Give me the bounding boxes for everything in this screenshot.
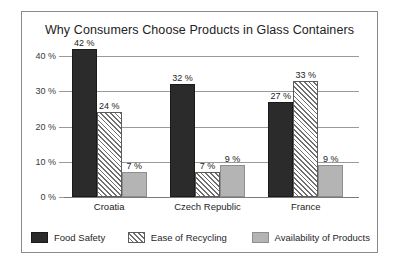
- legend-label: Food Safety: [54, 232, 105, 243]
- bar-value-label: 9 %: [225, 154, 241, 164]
- bar-value-label: 32 %: [172, 73, 193, 83]
- y-axis-label: 30 %: [35, 86, 56, 96]
- bar-france-food-safety[interactable]: 27 %: [268, 102, 293, 197]
- bar-czech-republic-ease-of-recycling[interactable]: 7 %: [195, 172, 220, 197]
- bars-row: 27 %33 %9 %: [268, 56, 343, 197]
- bars-row: 42 %24 %7 %: [72, 56, 147, 197]
- plot-area: 0 %10 %20 %30 %40 % 42 %24 %7 %Croatia32…: [64, 56, 359, 197]
- y-axis-tick: [59, 56, 64, 57]
- chart-frame: Why Consumers Choose Products in Glass C…: [21, 11, 378, 253]
- legend-label: Availability of Products: [275, 232, 370, 243]
- category-label-czech-republic: Czech Republic: [170, 201, 245, 212]
- bar-value-label: 33 %: [296, 70, 317, 80]
- y-axis-tick: [59, 197, 64, 198]
- bar-czech-republic-availability-of-products[interactable]: 9 %: [220, 165, 245, 197]
- chart-title: Why Consumers Choose Products in Glass C…: [22, 23, 377, 37]
- y-axis-tick: [59, 91, 64, 92]
- legend-item-food-safety[interactable]: Food Safety: [31, 232, 128, 243]
- y-axis-label: 20 %: [35, 122, 56, 132]
- y-axis-label: 10 %: [35, 157, 56, 167]
- bar-croatia-food-safety[interactable]: 42 %: [72, 49, 97, 197]
- legend-label: Ease of Recycling: [151, 232, 227, 243]
- legend-swatch-ease-of-recycling: [128, 232, 145, 243]
- bar-value-label: 42 %: [74, 38, 95, 48]
- y-axis-label: 40 %: [35, 51, 56, 61]
- category-label-croatia: Croatia: [72, 201, 147, 212]
- y-axis-tick: [59, 162, 64, 163]
- bars-row: 32 %7 %9 %: [170, 56, 245, 197]
- legend-item-availability-of-products[interactable]: Availability of Products: [252, 232, 370, 243]
- bar-croatia-ease-of-recycling[interactable]: 24 %: [97, 112, 122, 197]
- bar-value-label: 7 %: [126, 161, 142, 171]
- y-axis-tick: [59, 127, 64, 128]
- bar-group-croatia: 42 %24 %7 %Croatia: [72, 56, 147, 197]
- bar-czech-republic-food-safety[interactable]: 32 %: [170, 84, 195, 197]
- legend-item-ease-of-recycling[interactable]: Ease of Recycling: [128, 232, 252, 243]
- gridline: [64, 197, 359, 198]
- bar-france-availability-of-products[interactable]: 9 %: [318, 165, 343, 197]
- bar-value-label: 9 %: [323, 154, 339, 164]
- legend-swatch-availability-of-products: [252, 232, 269, 243]
- bar-group-czech-republic: 32 %7 %9 %Czech Republic: [170, 56, 245, 197]
- bar-group-france: 27 %33 %9 %France: [268, 56, 343, 197]
- legend-swatch-food-safety: [31, 232, 48, 243]
- chart-legend: Food SafetyEase of RecyclingAvailability…: [31, 229, 370, 245]
- bar-croatia-availability-of-products[interactable]: 7 %: [122, 172, 147, 197]
- bar-value-label: 27 %: [271, 91, 292, 101]
- bar-value-label: 24 %: [99, 101, 120, 111]
- y-axis-label: 0 %: [40, 192, 56, 202]
- bar-value-label: 7 %: [200, 161, 216, 171]
- bar-france-ease-of-recycling[interactable]: 33 %: [293, 81, 318, 197]
- category-label-france: France: [268, 201, 343, 212]
